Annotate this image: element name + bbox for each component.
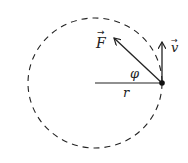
circular-motion-diagram: F → v → φ r [0, 0, 188, 163]
particle-point [159, 80, 165, 86]
velocity-label: v → [171, 36, 179, 55]
force-label-text: F [95, 35, 107, 51]
force-arrow-accent: → [97, 27, 105, 37]
radius-r-label: r [123, 85, 130, 100]
velocity-arrow-accent: → [171, 36, 178, 45]
angle-phi-label: φ [130, 66, 140, 81]
force-label: F → [95, 27, 107, 51]
